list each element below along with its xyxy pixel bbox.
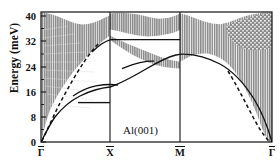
dispersion-plot-canvas bbox=[0, 0, 280, 168]
phonon-dispersion-figure: Energy (meV) 0 8 16 24 32 40 Γ X M Γ Al(… bbox=[0, 0, 280, 168]
bulk-continuum-x-m-upper bbox=[110, 13, 180, 37]
bulk-continuum-x-m-lower bbox=[110, 36, 180, 69]
